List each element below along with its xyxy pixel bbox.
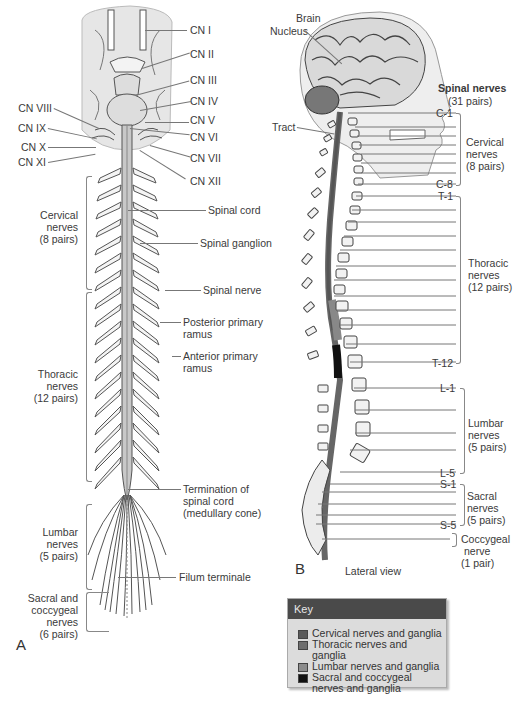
label-cn-ix: CN IX <box>16 122 46 134</box>
label-nucleus: Nucleus <box>270 25 308 37</box>
leader-cn-i <box>145 30 187 31</box>
leader-spinal-ganglion <box>140 243 198 244</box>
label-lumbar-a-2: nerves <box>18 538 78 550</box>
panel-b-letter: B <box>295 560 305 577</box>
legend-key: Key Cervical nerves and ganglia Thoracic… <box>287 598 447 688</box>
panel-a-letter: A <box>16 636 26 653</box>
label-lumbar-b-3: (5 pairs) <box>468 441 507 453</box>
caption-lateral-view: Lateral view <box>345 565 401 577</box>
label-coccygeal-b-3: (1 pair) <box>461 557 494 569</box>
label-thoracic-a-1: Thoracic <box>18 368 78 380</box>
label-cn-iii: CN III <box>190 74 217 86</box>
label-cervical-b-2: nerves <box>466 148 498 160</box>
label-coccygeal-b-1: Coccygeal <box>461 533 510 545</box>
label-thoracic-b-1: Thoracic <box>468 257 508 269</box>
leader-filum-terminale <box>118 577 176 578</box>
label-cervical-a-2: nerves <box>18 221 78 233</box>
label-cn-ii: CN II <box>190 48 214 60</box>
label-cervical-a-1: Cervical <box>18 209 78 221</box>
swatch-lumbar-icon <box>298 663 308 672</box>
level-l1: L-1 <box>440 382 455 394</box>
legend-item-sacral: Sacral and coccygeal nerves and ganglia <box>294 672 442 694</box>
bracket-thoracic-a <box>86 292 92 482</box>
label-brain: Brain <box>296 12 321 24</box>
leader-posterior-ramus <box>160 322 181 323</box>
label-thoracic-b-2: nerves <box>468 269 500 281</box>
label-spinal-ganglion: Spinal ganglion <box>200 237 272 249</box>
title-spinal-nerves-count: (31 pairs) <box>448 95 492 107</box>
label-cn-iv: CN IV <box>190 95 218 107</box>
bracket-sacral-a <box>86 592 109 632</box>
label-spinal-nerve: Spinal nerve <box>203 284 261 296</box>
level-c8: C-8 <box>436 178 453 190</box>
label-cn-xi: CN XI <box>16 156 46 168</box>
title-spinal-nerves: Spinal nerves <box>438 82 506 94</box>
label-sacral-b-3: (5 pairs) <box>467 514 506 526</box>
leader-anterior-ramus <box>172 356 181 357</box>
label-sacral-a-1: Sacral and <box>10 592 78 604</box>
label-termination-2: spinal cord <box>183 495 234 507</box>
label-posterior-ramus-2: ramus <box>183 328 212 340</box>
label-sacral-b-2: nerves <box>467 502 499 514</box>
label-thoracic-b-3: (12 pairs) <box>468 281 512 293</box>
label-sacral-a-3: nerves <box>10 616 78 628</box>
label-cn-vi: CN VI <box>190 131 218 143</box>
label-cn-vii: CN VII <box>190 152 221 164</box>
label-filum-terminale: Filum terminale <box>179 571 251 583</box>
label-cn-x: CN X <box>16 141 46 153</box>
label-lumbar-b-2: nerves <box>468 429 500 441</box>
leader-cn-v <box>145 122 189 123</box>
level-c1: C-1 <box>436 107 453 119</box>
swatch-thoracic-icon <box>298 641 308 650</box>
leader-cn-x <box>48 147 96 148</box>
label-cn-i: CN I <box>190 24 211 36</box>
label-sacral-b-1: Sacral <box>467 490 497 502</box>
level-s5: S-5 <box>440 519 456 531</box>
bracket-thoracic-b <box>456 196 461 364</box>
bracket-sacral-b <box>460 484 465 526</box>
label-termination-3: (medullary cone) <box>183 507 261 519</box>
label-thoracic-a-3: (12 pairs) <box>18 392 78 404</box>
label-thoracic-a-2: nerves <box>18 380 78 392</box>
bracket-lumbar-b <box>460 388 465 474</box>
bracket-lumbar-a <box>86 504 92 590</box>
label-coccygeal-b-2: nerve <box>464 545 490 557</box>
label-tract: Tract <box>272 121 296 133</box>
level-t12: T-12 <box>432 357 453 369</box>
level-s1: S-1 <box>440 478 456 490</box>
label-cervical-b-1: Cervical <box>466 136 504 148</box>
leader-spinal-cord <box>128 210 206 211</box>
label-cn-xii: CN XII <box>190 175 221 187</box>
legend-title: Key <box>288 599 446 619</box>
label-spinal-cord: Spinal cord <box>208 204 261 216</box>
bracket-cervical-b <box>456 113 461 186</box>
label-sacral-a-2: coccygeal <box>10 604 78 616</box>
label-cn-v: CN V <box>190 114 215 126</box>
leader-termination <box>128 489 181 490</box>
label-anterior-ramus-2: ramus <box>183 362 212 374</box>
label-lumbar-b-1: Lumbar <box>468 417 504 429</box>
label-cervical-a-3: (8 pairs) <box>18 233 78 245</box>
swatch-sacral-icon <box>298 674 308 683</box>
swatch-cervical-icon <box>298 630 308 639</box>
bracket-cervical-a <box>86 176 92 290</box>
legend-item-thoracic: Thoracic nerves and ganglia <box>294 639 442 661</box>
level-t1: T-1 <box>438 190 453 202</box>
label-anterior-ramus: Anterior primary <box>183 350 258 362</box>
label-cn-viii: CN VIII <box>16 102 52 114</box>
label-lumbar-a-3: (5 pairs) <box>18 550 78 562</box>
label-cervical-b-3: (8 pairs) <box>466 160 505 172</box>
label-termination: Termination of <box>183 483 249 495</box>
bracket-coccygeal-b <box>452 533 457 547</box>
label-posterior-ramus: Posterior primary <box>183 316 263 328</box>
leader-spinal-nerve <box>165 290 201 291</box>
label-lumbar-a-1: Lumbar <box>18 526 78 538</box>
